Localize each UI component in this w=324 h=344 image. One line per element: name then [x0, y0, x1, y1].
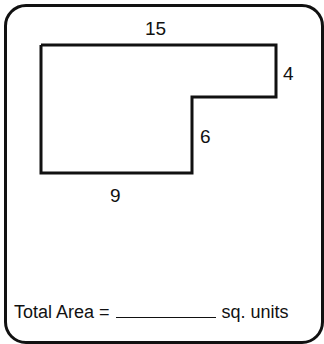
dimension-label-bottom: 9: [110, 186, 121, 205]
dimension-label-top: 15: [145, 19, 166, 38]
answer-line: Total Area = sq. units: [14, 301, 289, 323]
answer-prefix: Total Area =: [14, 302, 110, 323]
answer-suffix: sq. units: [222, 302, 289, 323]
dimension-label-right-inner: 6: [200, 127, 211, 146]
answer-blank[interactable]: [116, 301, 216, 318]
figure-outline: [41, 45, 276, 173]
dimension-label-right-upper: 4: [283, 64, 294, 83]
